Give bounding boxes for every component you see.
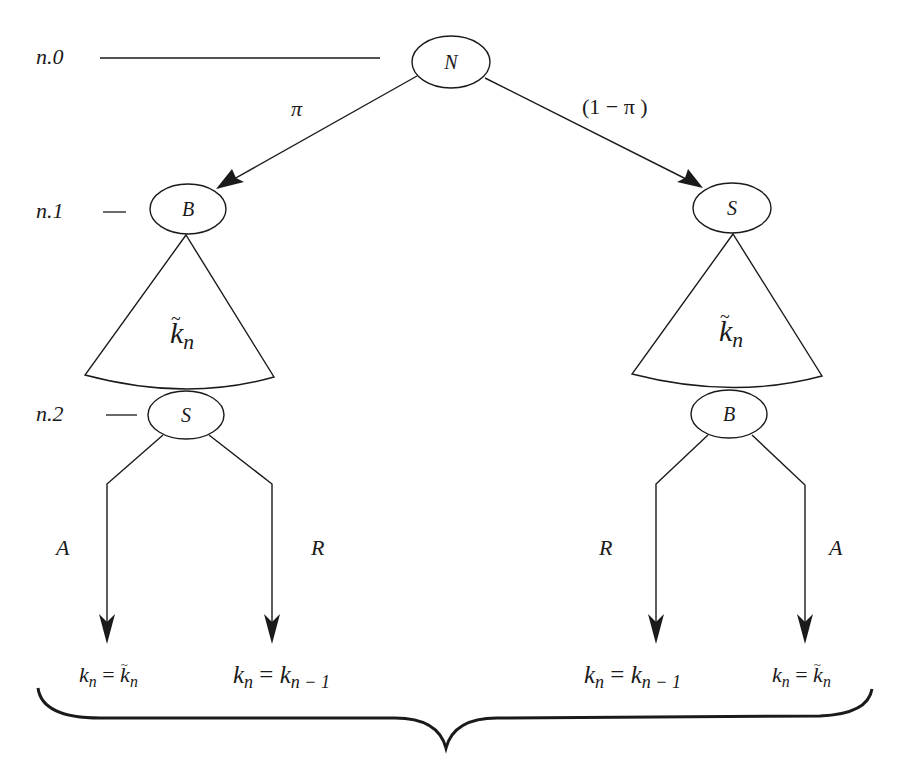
arrowhead-icon [677, 169, 703, 188]
node-left-n2-label: S [156, 405, 216, 425]
edge-right-accept [752, 435, 805, 640]
info-set-right-label: kn [719, 316, 743, 346]
edge-root-left [218, 76, 417, 188]
outcome-left-reject: kn = kn − 1 [233, 662, 330, 687]
edge-label-pi: π [291, 98, 302, 120]
edge-left-reject [209, 435, 272, 640]
bottom-brace [38, 688, 872, 748]
node-root-label: N [421, 52, 481, 72]
info-set-left-label: kn [170, 318, 194, 348]
level-label-n0: n.0 [36, 46, 64, 68]
node-left-n1-label: B [158, 199, 218, 219]
outcome-left-accept: kn = kn [79, 664, 138, 686]
level-label-n1: n.1 [36, 200, 64, 222]
edge-label-one-minus-pi: (1 − π ) [582, 96, 648, 118]
arrowhead-icon [216, 169, 244, 189]
outcome-right-accept: kn = kn [772, 664, 831, 686]
action-left-accept: A [56, 537, 69, 559]
k-tilde: k [170, 318, 183, 348]
k-tilde: k [719, 316, 732, 346]
game-tree-diagram: n.0 n.1 n.2 N B S S B π (1 − π ) kn kn A… [0, 0, 910, 780]
action-right-accept: A [829, 537, 842, 559]
node-right-n2-label: B [699, 404, 759, 424]
level-label-n2: n.2 [36, 403, 64, 425]
outcome-right-reject: kn = kn − 1 [584, 662, 681, 687]
edge-right-reject [656, 435, 708, 640]
action-right-reject: R [599, 537, 612, 559]
action-left-reject: R [311, 537, 324, 559]
node-right-n1-label: S [702, 198, 762, 218]
edge-left-accept [107, 435, 163, 640]
